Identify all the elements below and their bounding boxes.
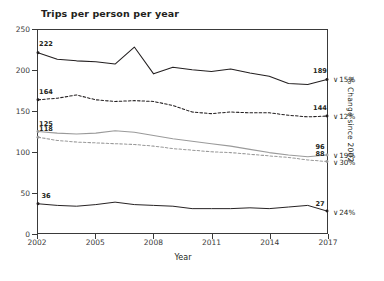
x-tick-label: 2014 — [260, 238, 279, 247]
series-line-4 — [38, 137, 327, 161]
right-axis-title: % Change since 2002 — [346, 77, 355, 162]
series-line-2 — [38, 95, 327, 117]
chevron-down-icon: ∨ — [333, 208, 338, 215]
series-endpoint-marker — [37, 202, 40, 205]
x-tick-mark — [153, 234, 154, 239]
plot-area — [37, 29, 328, 234]
x-tick-label: 2011 — [202, 238, 221, 247]
x-tick-mark — [212, 234, 213, 239]
x-axis-title: Year — [0, 253, 366, 262]
value-label: 222 — [39, 40, 53, 48]
series-line-1 — [38, 47, 327, 84]
series-endpoint-marker — [326, 78, 329, 81]
value-label: 36 — [41, 192, 50, 200]
series-endpoint-marker — [37, 51, 40, 54]
series-endpoint-marker — [326, 154, 329, 157]
x-tick-mark — [37, 234, 38, 239]
percent-change-label: ∨24% — [333, 207, 355, 216]
value-label: 27 — [315, 200, 324, 208]
chart-title: Trips per person per year — [41, 8, 179, 19]
x-tick-label: 2008 — [144, 238, 163, 247]
series-endpoint-marker — [326, 115, 329, 118]
value-label: 118 — [39, 125, 53, 133]
y-tick-label: 200 — [16, 66, 30, 75]
value-label: 144 — [313, 104, 327, 112]
series-endpoint-marker — [326, 210, 329, 213]
value-label: 164 — [39, 88, 53, 96]
y-tick-label: 150 — [16, 107, 30, 116]
series-endpoint-marker — [37, 98, 40, 101]
series-endpoint-marker — [326, 160, 329, 163]
chevron-down-icon: ∨ — [333, 112, 338, 119]
series-line-3 — [38, 131, 327, 157]
series-line-5 — [38, 202, 327, 211]
series-lines — [38, 30, 327, 233]
series-endpoint-marker — [37, 136, 40, 139]
y-tick-label: 100 — [16, 148, 30, 157]
x-tick-mark — [270, 234, 271, 239]
x-tick-mark — [328, 234, 329, 239]
chart-root: Trips per person per year 05010015020025… — [0, 0, 384, 281]
percent-change-value: 24% — [339, 207, 355, 216]
chevron-down-icon: ∨ — [333, 158, 338, 165]
y-tick-label: 50 — [20, 189, 30, 198]
value-label: 189 — [313, 67, 327, 75]
value-label: 88 — [315, 150, 324, 158]
x-tick-label: 2005 — [86, 238, 105, 247]
x-tick-mark — [95, 234, 96, 239]
chevron-down-icon: ∨ — [333, 76, 338, 83]
x-tick-label: 2002 — [27, 238, 46, 247]
x-tick-label: 2017 — [318, 238, 337, 247]
y-tick-label: 250 — [16, 25, 30, 34]
